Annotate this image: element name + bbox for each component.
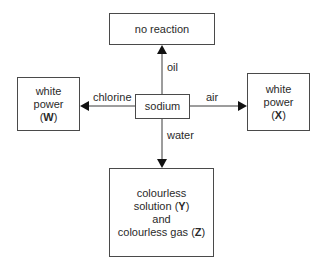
water-label: water — [167, 129, 194, 142]
no-reaction-text: no reaction — [135, 23, 189, 36]
product-x-line2: power — [264, 96, 294, 109]
product-x-id: (X) — [271, 109, 286, 122]
arrow-down-icon — [157, 159, 167, 168]
product-w-id: (W) — [40, 111, 58, 124]
arrow-left-icon — [80, 101, 89, 111]
no-reaction-box: no reaction — [109, 13, 215, 45]
product-w-line1: white — [36, 85, 62, 98]
chlorine-label: chlorine — [93, 91, 132, 104]
product-y-line1: colourless — [137, 187, 187, 200]
sodium-box: sodium — [135, 94, 190, 119]
air-label: air — [206, 91, 218, 104]
sodium-text: sodium — [145, 100, 180, 113]
product-x-box: white power (X) — [247, 73, 310, 131]
product-w-box: white power (W) — [17, 77, 80, 131]
products-yz-box: colourless solution (Y) and colourless g… — [109, 168, 214, 257]
product-x-line1: white — [266, 83, 292, 96]
and-text: and — [152, 213, 170, 226]
arrow-right-icon — [238, 101, 247, 111]
product-z-line: colourless gas (Z) — [118, 226, 205, 239]
oil-label: oil — [167, 61, 178, 74]
product-y-line2: solution (Y) — [134, 200, 190, 213]
arrow-up-icon — [157, 45, 167, 54]
product-w-line2: power — [34, 98, 64, 111]
